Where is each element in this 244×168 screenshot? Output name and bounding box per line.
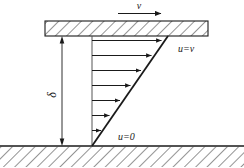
couette-flow-diagram: v δ u=v u=0	[0, 0, 244, 167]
moving-plate	[45, 21, 208, 36]
gap-thickness-label: δ	[45, 92, 59, 98]
top-velocity-label: u=v	[178, 43, 195, 54]
plate-motion-indicator: v	[118, 0, 161, 14]
stationary-wall	[0, 146, 244, 167]
gap-dimension: δ	[45, 36, 64, 146]
moving-plate-body	[45, 21, 208, 36]
gap-dimension-arrowhead-bottom	[60, 139, 65, 147]
plate-velocity-label: v	[137, 0, 142, 11]
velocity-vector-arrows	[92, 41, 162, 131]
diagram-canvas: v δ u=v u=0	[0, 0, 244, 167]
linear-velocity-profile-line	[92, 36, 168, 146]
gap-dimension-arrowhead-top	[60, 36, 65, 44]
wall-velocity-label: u=0	[118, 131, 135, 142]
wall-hatch-body	[0, 147, 244, 168]
